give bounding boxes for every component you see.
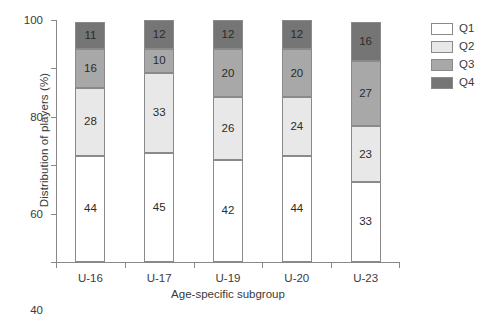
bar-value-label: 12 <box>222 29 235 41</box>
y-axis-title: Distribution of players (%) <box>38 20 50 260</box>
bar-value-label: 28 <box>84 116 97 128</box>
legend-label: Q1 <box>459 23 474 35</box>
y-tick-mark: 80 <box>51 68 56 69</box>
x-tick-mark <box>56 263 57 268</box>
x-tick-label-u-23: U-23 <box>353 272 378 284</box>
bar-value-label: 23 <box>359 149 372 161</box>
legend-item-q4[interactable]: Q4 <box>431 75 474 91</box>
bar-segment-u-17-q4: 12 <box>144 20 174 49</box>
bar-segment-u-20-q2: 24 <box>282 97 312 155</box>
y-axis-line <box>56 20 57 263</box>
legend-label: Q2 <box>459 41 474 53</box>
y-tick-mark: 60 <box>51 117 56 118</box>
legend-label: Q4 <box>459 77 474 89</box>
x-tick-mark <box>399 263 400 268</box>
x-tick-label-u-17: U-17 <box>147 272 172 284</box>
plot-area: 020406080100 U-16U-17U-19U-20U-23 442816… <box>56 20 400 263</box>
bar-value-label: 20 <box>290 68 303 80</box>
bar-segment-u-16-q1: 44 <box>75 156 105 262</box>
chart-figure: Distribution of players (%) 020406080100… <box>0 0 485 320</box>
bar-value-label: 10 <box>153 55 166 67</box>
legend-label: Q3 <box>459 59 474 71</box>
bar-value-label: 44 <box>84 203 97 215</box>
legend-swatch-q4 <box>431 77 453 89</box>
y-tick-label: 100 <box>24 14 43 26</box>
bar-segment-u-20-q3: 20 <box>282 49 312 97</box>
bar-column-u-17: 45331012 <box>144 20 174 262</box>
bar-value-label: 12 <box>290 29 303 41</box>
bar-column-u-19: 42262012 <box>213 20 243 262</box>
bar-segment-u-23-q1: 33 <box>351 182 381 262</box>
legend-swatch-q2 <box>431 41 453 53</box>
chart-legend: Q1Q2Q3Q4 <box>431 21 474 93</box>
bar-segment-u-23-q3: 27 <box>351 61 381 126</box>
x-tick-label-u-19: U-19 <box>216 272 241 284</box>
bar-segment-u-16-q3: 16 <box>75 49 105 88</box>
legend-item-q2[interactable]: Q2 <box>431 39 474 55</box>
y-tick-mark: 40 <box>51 165 56 166</box>
bar-value-label: 24 <box>290 121 303 133</box>
bar-value-label: 16 <box>84 63 97 75</box>
bar-value-label: 26 <box>222 123 235 135</box>
x-tick-label-u-20: U-20 <box>284 272 309 284</box>
bar-value-label: 45 <box>153 202 166 214</box>
y-tick-mark: 100 <box>51 20 56 21</box>
bar-segment-u-16-q4: 11 <box>75 22 105 49</box>
bar-segment-u-17-q1: 45 <box>144 153 174 262</box>
x-axis-title: Age-specific subgroup <box>56 288 400 300</box>
bar-segment-u-17-q2: 33 <box>144 73 174 153</box>
bar-segment-u-20-q4: 12 <box>282 20 312 49</box>
bar-segment-u-17-q3: 10 <box>144 49 174 73</box>
bar-value-label: 44 <box>290 203 303 215</box>
x-tick-label-u-16: U-16 <box>78 272 103 284</box>
legend-item-q3[interactable]: Q3 <box>431 57 474 73</box>
bar-column-u-23: 33232716 <box>351 20 381 262</box>
bar-segment-u-19-q3: 20 <box>213 49 243 97</box>
bar-value-label: 42 <box>222 205 235 217</box>
bar-value-label: 11 <box>84 30 96 42</box>
bar-value-label: 16 <box>359 36 372 48</box>
y-tick-label: 40 <box>30 304 43 316</box>
bar-segment-u-16-q2: 28 <box>75 88 105 156</box>
x-tick-mark <box>331 263 332 268</box>
y-tick-mark: 20 <box>51 214 56 215</box>
bar-column-u-20: 44242012 <box>282 20 312 262</box>
bar-segment-u-19-q2: 26 <box>213 97 243 160</box>
y-tick-label: 80 <box>30 111 43 123</box>
bar-value-label: 20 <box>222 68 235 80</box>
bar-column-u-16: 44281611 <box>75 20 105 262</box>
x-axis-line <box>56 262 400 263</box>
bar-segment-u-23-q4: 16 <box>351 22 381 61</box>
legend-item-q1[interactable]: Q1 <box>431 21 474 37</box>
bar-segment-u-23-q2: 23 <box>351 126 381 182</box>
bar-value-label: 12 <box>153 29 166 41</box>
legend-swatch-q1 <box>431 23 453 35</box>
bar-segment-u-20-q1: 44 <box>282 156 312 262</box>
y-tick-label: 60 <box>30 208 43 220</box>
bar-value-label: 33 <box>359 216 372 228</box>
bar-segment-u-19-q1: 42 <box>213 160 243 262</box>
bar-segment-u-19-q4: 12 <box>213 20 243 49</box>
legend-swatch-q3 <box>431 59 453 71</box>
x-tick-mark <box>125 263 126 268</box>
x-tick-mark <box>194 263 195 268</box>
bar-value-label: 33 <box>153 107 166 119</box>
x-tick-mark <box>262 263 263 268</box>
bar-value-label: 27 <box>359 88 372 100</box>
